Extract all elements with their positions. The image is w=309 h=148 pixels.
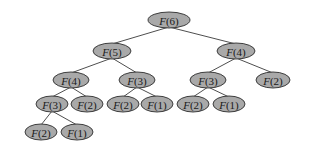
node-label: F(2)	[262, 75, 283, 88]
tree-edge	[169, 27, 236, 44]
tree-node: F(4)	[217, 43, 255, 59]
node-argument: (2)	[190, 99, 203, 112]
tree-node: F(3)	[119, 72, 155, 88]
tree-node: F(2)	[107, 96, 139, 112]
node-argument: (2)	[38, 127, 51, 140]
node-argument: (2)	[270, 75, 283, 88]
tree-edge	[193, 87, 208, 97]
tree-edge	[41, 111, 52, 125]
tree-node: F(2)	[71, 96, 103, 112]
tree-node: F(4)	[53, 72, 89, 88]
node-label: F(2)	[112, 99, 133, 112]
node-label: F(2)	[30, 127, 51, 140]
tree-edge	[52, 111, 77, 125]
tree-edge	[52, 87, 71, 97]
node-argument: (3)	[205, 75, 218, 88]
recursion-tree-diagram: F(6)F(5)F(4)F(4)F(3)F(3)F(2)F(3)F(2)F(2)…	[0, 0, 309, 148]
node-argument: (1)	[226, 99, 239, 112]
tree-node: F(6)	[148, 12, 190, 28]
tree-edge	[112, 27, 169, 44]
node-label: F(1)	[66, 127, 87, 140]
node-label: F(5)	[101, 46, 122, 59]
node-argument: (3)	[134, 75, 147, 88]
tree-node: F(1)	[213, 96, 245, 112]
tree-edge	[112, 58, 137, 73]
tree-edge	[208, 58, 236, 73]
tree-node: F(3)	[36, 96, 68, 112]
node-label: F(2)	[182, 99, 203, 112]
node-label: F(3)	[126, 75, 147, 88]
node-label: F(1)	[218, 99, 239, 112]
tree-node: F(5)	[93, 43, 131, 59]
tree-node: F(2)	[25, 124, 57, 140]
node-argument: (1)	[74, 127, 87, 140]
node-argument: (4)	[233, 46, 246, 59]
node-label: F(4)	[60, 75, 81, 88]
node-label: F(3)	[41, 99, 62, 112]
tree-nodes: F(6)F(5)F(4)F(4)F(3)F(3)F(2)F(3)F(2)F(2)…	[25, 12, 290, 140]
node-label: F(1)	[146, 99, 167, 112]
tree-edge	[71, 87, 87, 97]
node-argument: (4)	[68, 75, 81, 88]
tree-edge	[137, 87, 157, 97]
node-label: F(4)	[225, 46, 246, 59]
tree-node: F(1)	[141, 96, 173, 112]
node-argument: (6)	[166, 15, 179, 28]
node-label: F(6)	[158, 15, 179, 28]
tree-edge	[236, 58, 273, 73]
node-argument: (5)	[109, 46, 122, 59]
node-argument: (3)	[49, 99, 62, 112]
node-label: F(2)	[76, 99, 97, 112]
tree-node: F(1)	[61, 124, 93, 140]
tree-node: F(2)	[177, 96, 209, 112]
tree-node: F(2)	[256, 72, 290, 88]
tree-node: F(3)	[190, 72, 226, 88]
tree-edge	[71, 58, 112, 73]
node-label: F(3)	[197, 75, 218, 88]
tree-edge	[208, 87, 229, 97]
node-argument: (2)	[120, 99, 133, 112]
node-argument: (1)	[154, 99, 167, 112]
tree-edge	[123, 87, 137, 97]
node-argument: (2)	[84, 99, 97, 112]
